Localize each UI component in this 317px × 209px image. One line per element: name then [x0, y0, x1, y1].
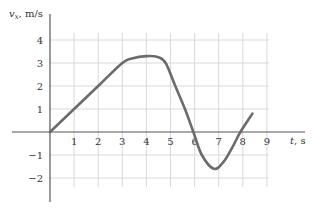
velocity-chart: 1234567894321−1−2 vx, m/s t, s	[0, 0, 317, 209]
axes	[12, 14, 305, 202]
y-axis-label: vx, m/s	[9, 8, 43, 21]
y-tick-label: 2	[37, 81, 43, 92]
x-tick-label: 1	[71, 136, 77, 147]
x-tick-label: 9	[264, 136, 270, 147]
y-tick-label: −2	[28, 173, 43, 184]
grid	[50, 33, 269, 187]
x-tick-label: 2	[95, 136, 101, 147]
y-tick-label: 1	[37, 104, 43, 115]
x-tick-label: 8	[240, 136, 246, 147]
x-tick-label: 7	[216, 136, 222, 147]
y-tick-label: −1	[28, 150, 43, 161]
x-tick-label: 3	[119, 136, 125, 147]
y-tick-label: 4	[37, 35, 43, 46]
x-axis-label: t, s	[290, 135, 306, 146]
velocity-curve	[50, 56, 252, 169]
x-tick-label: 5	[167, 136, 173, 147]
y-tick-label: 3	[37, 58, 43, 69]
x-tick-label: 4	[143, 136, 149, 147]
